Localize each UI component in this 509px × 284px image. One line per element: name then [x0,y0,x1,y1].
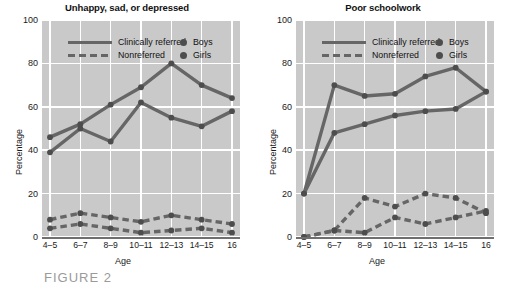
legend-label-clinically-referred: Clinically referred [118,38,186,47]
circle-marker-icon [180,52,187,59]
y-axis-tick-label: 60 [264,102,292,112]
data-point-marker [77,210,83,216]
data-point-marker [199,217,205,223]
x-axis-tick-label: 14–15 [444,240,468,250]
plot-area-left: Clinically referred Nonreferred Boys Gir… [42,20,240,237]
data-point-marker [47,149,53,155]
data-point-marker [453,106,459,112]
data-point-marker [108,139,114,145]
legend-label-nonreferred: Nonreferred [372,51,419,60]
x-axis-line-right [296,237,494,239]
plot-area-right: Clinically referred Nonreferred Boys Gir… [296,20,494,237]
legend-label-girls: Girls [193,51,211,60]
y-axis-tick-label: 80 [10,58,38,68]
x-axis-tick-label: 6–7 [73,240,87,250]
y-axis-tick-label: 80 [264,58,292,68]
data-point-marker [422,221,428,227]
series-line [304,92,486,194]
circle-marker-icon [180,39,187,46]
series-line [304,68,486,194]
series-line [50,102,232,152]
data-point-marker [362,195,368,201]
data-point-marker [392,113,398,119]
legend-label-nonreferred: Nonreferred [118,51,165,60]
data-point-marker [77,126,83,132]
x-axis-tick-label: 4–5 [297,240,311,250]
x-axis-label-right: Age [278,256,476,266]
legend-item-clinically-referred: Clinically referred [68,36,186,49]
y-axis-tick-label: 0 [10,232,38,242]
data-point-marker [301,191,307,197]
y-axis-tick-label: 100 [10,15,38,25]
data-point-marker [229,230,235,236]
data-point-marker [229,95,235,101]
legend-item-girls: Girls [180,49,213,62]
dashed-line-swatch-icon [322,50,366,62]
y-axis-tick-label: 20 [10,189,38,199]
solid-line-swatch-icon [322,37,366,49]
data-point-marker [199,82,205,88]
data-point-marker [422,108,428,114]
data-point-marker [483,208,489,214]
x-axis-tick-label: 12–13 [159,240,183,250]
x-axis-tick-label: 6–7 [327,240,341,250]
x-axis-tick-label: 10–11 [129,240,152,250]
figure-caption: FIGURE 2 [44,270,112,284]
chart-title-right: Poor schoolwork [258,2,508,13]
legend-label-girls: Girls [449,51,467,60]
legend-item-nonreferred: Nonreferred [322,49,440,62]
data-point-marker [392,91,398,97]
data-point-marker [138,230,144,236]
data-point-marker [331,130,337,136]
legend-label-boys: Boys [449,38,469,47]
data-point-marker [168,212,174,218]
legend-item-boys: Boys [436,36,469,49]
data-point-marker [422,74,428,80]
data-point-marker [453,65,459,71]
data-point-marker [138,100,144,106]
legend-right-lines: Clinically referred Nonreferred [322,36,440,62]
data-point-marker [422,191,428,197]
data-point-marker [392,215,398,221]
data-point-marker [108,225,114,231]
chart-panel-unhappy-sad-depressed: Unhappy, sad, or depressed Percentage Cl… [2,0,252,284]
y-axis-tick-label: 0 [264,232,292,242]
data-point-marker [362,121,368,127]
data-point-marker [362,93,368,99]
y-axis-tick-label: 60 [10,102,38,112]
legend-item-nonreferred: Nonreferred [68,49,186,62]
circle-marker-icon [436,39,443,46]
data-point-marker [362,230,368,236]
legend-left-sex: Boys Girls [180,36,213,62]
legend-label-boys: Boys [193,38,213,47]
data-point-marker [483,89,489,95]
data-point-marker [453,215,459,221]
legend-item-girls: Girls [436,49,469,62]
chart-title-left: Unhappy, sad, or depressed [2,2,252,13]
chart-panel-poor-schoolwork: Poor schoolwork Percentage Clinically re… [258,0,508,284]
circle-marker-icon [436,52,443,59]
y-axis-tick-label: 20 [264,189,292,199]
y-axis-tick-label: 40 [264,145,292,155]
y-axis-tick-label: 40 [10,145,38,155]
x-axis-label-left: Age [24,256,222,266]
solid-line-swatch-icon [68,37,112,49]
data-point-marker [47,134,53,140]
data-point-marker [199,123,205,129]
data-point-marker [47,225,53,231]
data-point-marker [47,217,53,223]
legend-item-boys: Boys [180,36,213,49]
x-axis-tick-label: 14–15 [190,240,214,250]
legend-label-clinically-referred: Clinically referred [372,38,440,47]
data-point-marker [229,221,235,227]
x-axis-tick-label: 10–11 [383,240,406,250]
legend-right-sex: Boys Girls [436,36,469,62]
legend-left: Clinically referred Nonreferred [68,36,186,62]
data-point-marker [229,108,235,114]
data-point-marker [108,102,114,108]
data-point-marker [77,221,83,227]
data-point-marker [199,225,205,231]
legend-item-clinically-referred: Clinically referred [322,36,440,49]
x-axis-tick-label: 4–5 [43,240,57,250]
data-point-marker [168,228,174,234]
